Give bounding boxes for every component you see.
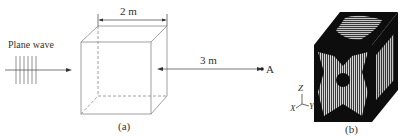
distance-label: 3 m (200, 55, 217, 66)
axis-y-label: Y (309, 102, 314, 111)
cube-outline (81, 26, 167, 114)
plane-wave-label: Plane wave (8, 40, 54, 50)
diagram-canvas (0, 0, 404, 139)
point-a-label: A (266, 64, 274, 75)
caption-b: (b) (345, 124, 358, 135)
distance-dimension (157, 67, 264, 71)
cube-rcs-model (314, 12, 398, 122)
incident-arrow (5, 68, 72, 72)
axis-z-label: Z (298, 84, 303, 93)
caption-a: (a) (118, 121, 130, 132)
width-label: 2 m (120, 6, 137, 17)
axis-x-label: X (290, 104, 296, 113)
axis-triad (296, 94, 309, 108)
